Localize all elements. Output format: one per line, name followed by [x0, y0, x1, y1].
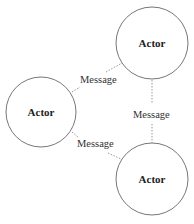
actor-label: Actor: [139, 173, 166, 185]
edge-label-left-bottom: Message: [77, 138, 114, 149]
actor-node-bottom[interactable]: Actor: [116, 143, 188, 215]
actor-node-left[interactable]: Actor: [6, 77, 76, 147]
edge-label-left-top: Message: [80, 74, 117, 85]
edge-label-top-bottom: Message: [133, 109, 170, 120]
actor-label: Actor: [139, 37, 166, 49]
edge-top-bottom: Message: [133, 80, 170, 143]
actor-diagram: Message Message Message Actor Actor Acto…: [0, 0, 194, 224]
actor-node-top[interactable]: Actor: [116, 7, 188, 79]
actor-label: Actor: [28, 106, 55, 118]
edge-left-top: Message: [72, 63, 122, 92]
edge-left-bottom: Message: [72, 132, 121, 159]
